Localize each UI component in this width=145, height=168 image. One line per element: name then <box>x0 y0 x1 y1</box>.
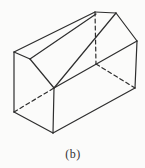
front-right-wall-edge <box>53 88 54 133</box>
hidden-back-bottom-edge <box>96 64 135 88</box>
long-top-left-edge <box>14 12 95 52</box>
front-bottom-edge <box>14 112 53 133</box>
right-shoulder-back-edge <box>54 13 116 88</box>
back-roof-right-edge <box>116 13 137 41</box>
front-roof-left-edge <box>14 52 30 59</box>
house-prism-wireframe <box>0 0 145 168</box>
figure-caption: (b) <box>50 147 96 162</box>
long-bottom-right-edge <box>53 88 135 133</box>
hidden-long-bottom-left-edge <box>14 88 54 112</box>
long-ridge-edge <box>30 14 96 59</box>
back-top-edge <box>95 12 116 13</box>
front-roof-right-edge <box>30 59 54 88</box>
back-right-wall-edge <box>135 41 137 88</box>
figure-panel: (b) <box>0 0 145 168</box>
